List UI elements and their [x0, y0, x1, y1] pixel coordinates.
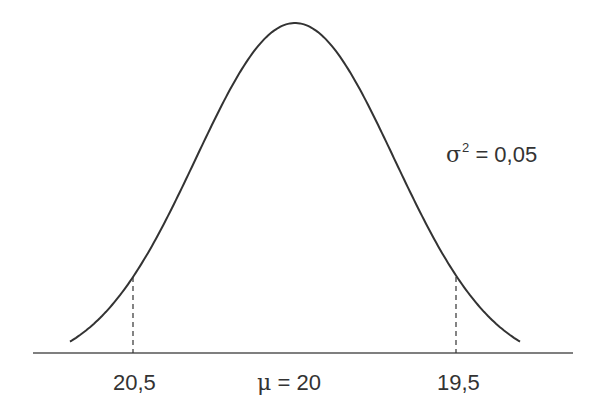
mean-value: = 20 [277, 370, 320, 395]
sigma-symbol: σ [446, 142, 461, 167]
left-tick-label: 20,5 [113, 372, 156, 394]
variance-exponent: 2 [462, 140, 469, 155]
mu-symbol: μ [257, 370, 271, 395]
mean-label: μ = 20 [257, 372, 321, 394]
variance-value: = 0,05 [475, 142, 537, 167]
right-tick-label: 19,5 [437, 372, 480, 394]
bell-curve [70, 23, 520, 342]
variance-annotation: σ2 = 0,05 [446, 144, 537, 166]
normal-curve-diagram [0, 0, 596, 415]
